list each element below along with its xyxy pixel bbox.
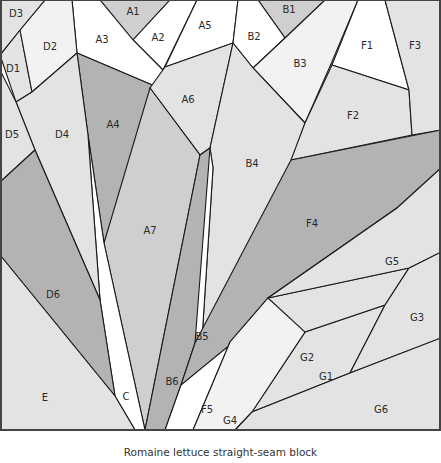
piece-label-d3: D3 <box>9 8 23 19</box>
pieces-layer <box>0 0 441 430</box>
piece-label-g1: G1 <box>319 371 333 382</box>
piece-label-d2: D2 <box>43 41 57 52</box>
piece-label-d5: D5 <box>5 129 19 140</box>
piece-label-a6: A6 <box>181 94 194 105</box>
piece-label-b2: B2 <box>247 31 260 42</box>
piece-label-d4: D4 <box>55 129 69 140</box>
piece-label-a7: A7 <box>143 225 156 236</box>
piece-label-c: C <box>123 391 130 402</box>
piece-label-g3: G3 <box>410 312 424 323</box>
piece-label-d6: D6 <box>46 289 60 300</box>
piece-label-f4: F4 <box>306 218 318 229</box>
piece-label-f1: F1 <box>361 40 373 51</box>
figure-caption: Romaine lettuce straight-seam block <box>0 446 441 458</box>
piece-label-g4: G4 <box>223 415 237 426</box>
piece-label-a1: A1 <box>126 6 139 17</box>
piece-label-f3: F3 <box>409 40 421 51</box>
piece-label-b5: B5 <box>195 331 208 342</box>
piece-label-a2: A2 <box>151 32 164 43</box>
piece-label-b4: B4 <box>245 158 258 169</box>
piece-label-a3: A3 <box>95 34 108 45</box>
piece-label-g2: G2 <box>300 352 314 363</box>
piece-label-b3: B3 <box>293 58 306 69</box>
piece-label-g6: G6 <box>374 404 388 415</box>
piece-label-a4: A4 <box>106 119 119 130</box>
piece-label-e: E <box>42 392 48 403</box>
piece-label-b6: B6 <box>165 376 178 387</box>
piece-label-a5: A5 <box>198 20 211 31</box>
piece-label-f5: F5 <box>201 404 213 415</box>
quilt-block-diagram: A1A2A3A4A5A6A7B1B2B3B4B5B6CD1D2D3D4D5D6E… <box>0 0 441 445</box>
piece-label-f2: F2 <box>347 110 359 121</box>
piece-label-d1: D1 <box>6 63 20 74</box>
piece-label-g5: G5 <box>385 256 399 267</box>
piece-label-b1: B1 <box>282 4 295 15</box>
